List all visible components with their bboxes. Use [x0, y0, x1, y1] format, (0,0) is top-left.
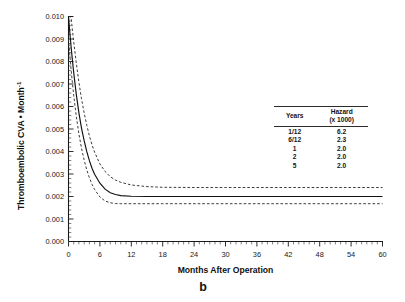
x-tick-label: 48 [316, 250, 324, 259]
y-tick-label: 0.004 [46, 147, 65, 156]
x-tick-label: 54 [347, 250, 355, 259]
x-tick-label: 42 [284, 250, 292, 259]
y-tick-label: 0.001 [46, 215, 65, 224]
y-tick-label: 0.007 [46, 80, 65, 89]
cell-hazard: 2.0 [315, 153, 368, 161]
x-tick-label: 60 [378, 250, 386, 259]
cell-hazard: 2.0 [315, 161, 368, 169]
x-axis-tick-labels: 0 6 12 18 24 30 36 42 48 54 60 [66, 250, 386, 259]
panel-label-b: b [199, 280, 207, 294]
cell-hazard: 2.0 [315, 145, 368, 153]
x-tick-label: 12 [127, 250, 135, 259]
table-header-row: Years Hazard (x 1000) [274, 107, 368, 127]
x-axis-title: Months After Operation [178, 265, 274, 275]
x-tick-label: 36 [253, 250, 261, 259]
y-tick-label: 0.002 [46, 192, 65, 201]
y-tick-label: 0.003 [46, 170, 65, 179]
column-header-hazard-units: (x 1000) [317, 116, 366, 124]
hazard-inset-table: Years Hazard (x 1000) 1/12 6.2 6/12 2.3 [274, 106, 368, 170]
table-row: 2 2.0 [274, 153, 368, 161]
y-axis-tick-labels: 0.010 0.009 0.008 0.007 0.006 0.005 0.00… [46, 12, 65, 246]
column-header-years: Years [274, 107, 315, 127]
x-tick-label: 30 [221, 250, 229, 259]
table-row: 1 2.0 [274, 145, 368, 153]
y-tick-label: 0.010 [46, 12, 65, 21]
column-header-hazard: Hazard (x 1000) [315, 107, 368, 127]
table-row: 5 2.0 [274, 161, 368, 169]
y-tick-label: 0.008 [46, 57, 65, 66]
cell-years: 1/12 [274, 126, 315, 136]
cell-hazard: 2.3 [315, 136, 368, 144]
x-tick-label: 18 [159, 250, 167, 259]
cell-hazard: 6.2 [315, 126, 368, 136]
cell-years: 6/12 [274, 136, 315, 144]
cell-years: 5 [274, 161, 315, 169]
x-tick-label: 24 [190, 250, 198, 259]
y-axis-title: Thromboembolic CVA • Month-1 [15, 81, 26, 210]
table-row: 6/12 2.3 [274, 136, 368, 144]
column-header-hazard-label: Hazard [317, 108, 366, 116]
table-row: 1/12 6.2 [274, 126, 368, 136]
cell-years: 2 [274, 153, 315, 161]
y-tick-label: 0.005 [46, 125, 65, 134]
y-tick-label: 0.006 [46, 102, 65, 111]
x-tick-label: 6 [98, 250, 102, 259]
y-tick-label: 0.009 [46, 35, 65, 44]
y-tick-label: 0.000 [46, 237, 65, 246]
cell-years: 1 [274, 145, 315, 153]
column-header-years-label: Years [286, 112, 304, 119]
figure-panel-b: 0.010 0.009 0.008 0.007 0.006 0.005 0.00… [0, 0, 405, 302]
x-tick-label: 0 [66, 250, 70, 259]
